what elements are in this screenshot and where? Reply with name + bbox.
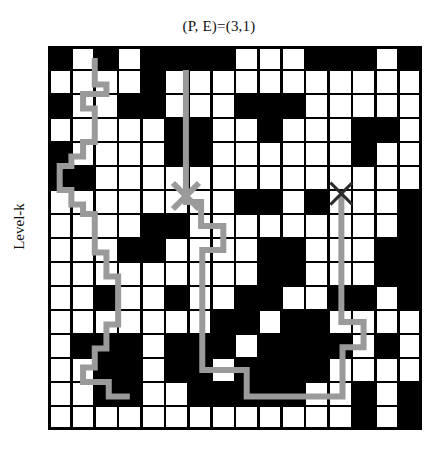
grid-cell-blocked <box>212 46 236 71</box>
grid-cell-blocked <box>399 214 422 239</box>
grid-cell-blocked <box>212 334 236 359</box>
grid-cell-blocked <box>329 46 353 71</box>
figure-container: (P, E)=(3,1) Level-k <box>0 0 438 453</box>
grid-cell-blocked <box>258 262 282 287</box>
grid-cell-blocked <box>235 286 259 311</box>
grid-cell-blocked <box>188 118 212 143</box>
grid-cell-blocked <box>305 46 329 71</box>
grid-cell-blocked <box>305 310 329 335</box>
chart-title: (P, E)=(3,1) <box>0 18 438 35</box>
grid-cell-blocked <box>188 142 212 167</box>
grid-cell-blocked <box>399 262 422 287</box>
grid-cell-blocked <box>118 358 142 383</box>
grid-cell-blocked <box>212 310 236 335</box>
grid-cell-blocked <box>235 310 259 335</box>
grid-cell-blocked <box>165 358 189 383</box>
grid-cell-blocked <box>258 334 282 359</box>
grid-cell-blocked <box>142 70 166 95</box>
grid-cell-blocked <box>282 262 306 287</box>
grid-cell-blocked <box>142 46 166 71</box>
grid-cell-blocked <box>212 382 236 407</box>
grid-cell-blocked <box>118 94 142 119</box>
grid-cell-blocked <box>235 94 259 119</box>
grid-cell-blocked <box>95 46 119 71</box>
grid-cell-blocked <box>375 238 399 263</box>
grid-cell-blocked <box>352 118 376 143</box>
grid-cell-blocked <box>142 238 166 263</box>
grid-cell-blocked <box>282 358 306 383</box>
grid-cell-blocked <box>352 406 376 430</box>
grid-cell-blocked <box>258 238 282 263</box>
grid-cell-blocked <box>258 286 282 311</box>
grid-cell-blocked <box>258 190 282 215</box>
grid-cell-blocked <box>188 46 212 71</box>
grid-cell-blocked <box>48 46 72 71</box>
grid-cell-blocked <box>352 382 376 407</box>
grid-cell-blocked <box>235 190 259 215</box>
grid-cell-blocked <box>165 214 189 239</box>
grid-cell-blocked <box>282 238 306 263</box>
grid-cell-blocked <box>258 118 282 143</box>
grid-cell-blocked <box>282 334 306 359</box>
grid-cell-blocked <box>282 94 306 119</box>
grid-cell-blocked <box>282 310 306 335</box>
grid-cell-blocked <box>399 46 422 71</box>
grid-cell-blocked <box>375 262 399 287</box>
grid-cell-blocked <box>188 382 212 407</box>
y-axis-label-container: Level-k <box>2 0 36 453</box>
grid-cell-blocked <box>118 334 142 359</box>
grid-cell-blocked <box>48 94 72 119</box>
grid-cell-blocked <box>399 286 422 311</box>
grid-cell-blocked <box>305 190 329 215</box>
grid-cell-blocked <box>352 46 376 71</box>
grid-cell-blocked <box>258 94 282 119</box>
grid-cell-blocked <box>399 406 422 430</box>
grid-cell-blocked <box>258 358 282 383</box>
grid-cell-blocked <box>95 358 119 383</box>
grid-cell-blocked <box>375 118 399 143</box>
grid-cell-blocked <box>305 358 329 383</box>
grid-cell-blocked <box>399 382 422 407</box>
grid-cell-blocked <box>399 238 422 263</box>
maze-grid-plot <box>48 46 422 430</box>
grid-cell-blocked <box>71 166 95 191</box>
grid-cell-blocked <box>399 190 422 215</box>
grid-cell-blocked <box>165 334 189 359</box>
y-axis-label: Level-k <box>11 203 28 250</box>
grid-cell-blocked <box>165 46 189 71</box>
grid-cell-blocked <box>375 334 399 359</box>
grid-cell-blocked <box>165 286 189 311</box>
grid-cell-blocked <box>142 94 166 119</box>
maze-grid-svg <box>48 46 422 430</box>
grid-cell-blocked <box>142 214 166 239</box>
grid-cell-blocked <box>352 286 376 311</box>
grid-cell-blocked <box>118 238 142 263</box>
grid-cell-blocked <box>352 142 376 167</box>
grid-cell-blocked <box>305 334 329 359</box>
